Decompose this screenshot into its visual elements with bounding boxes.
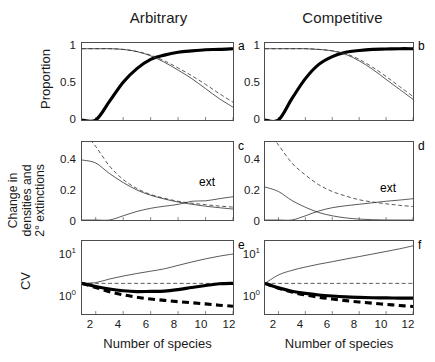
xtick-f-6: 6: [319, 319, 335, 331]
xtick-f-8: 8: [346, 319, 362, 331]
panel-b-plot: [265, 43, 413, 120]
xtick-e-4: 4: [110, 319, 126, 331]
panel-f-series: [265, 246, 413, 307]
ytick-e-10e1-exponent: 1: [72, 246, 76, 255]
xtick-e-2: 2: [82, 319, 98, 331]
panel-b-series: [265, 49, 413, 122]
xtick-e-10: 10: [191, 319, 211, 331]
xtick-f-4: 4: [292, 319, 308, 331]
ytick-a-1: 1: [48, 40, 76, 52]
panel-a: [81, 42, 234, 121]
xtick-f-10: 10: [371, 319, 391, 331]
ytick-c-0: 0: [44, 216, 76, 228]
ytick-f-10e0-exponent: 0: [256, 288, 260, 297]
series-proportion-thin-solid: [265, 49, 413, 100]
panel-d-series: [265, 127, 413, 220]
panel-letter-a: a: [238, 40, 245, 52]
panel-f: [264, 240, 414, 315]
panel-letter-d: d: [418, 140, 425, 152]
ytick-c-02: 0.2: [44, 185, 76, 197]
panel-a-series: [82, 49, 233, 122]
ytick-b-0: 0: [232, 114, 260, 126]
column-title-arbitrary: Arbitrary: [96, 9, 221, 26]
panel-a-plot: [82, 43, 233, 120]
panel-letter-b: b: [418, 40, 425, 52]
figure-root: Arbitrary Competitive Proportion 1 0.5 0…: [0, 0, 435, 362]
ytick-e-10e1: 101: [44, 249, 76, 261]
ytick-f-10e0-mantissa: 10: [243, 290, 256, 302]
ytick-e-10e0-mantissa: 10: [59, 290, 72, 302]
y-axis-label-cv: CV: [19, 261, 33, 301]
xtick-f-2: 2: [265, 319, 281, 331]
column-title-competitive: Competitive: [275, 9, 410, 26]
ytick-a-05: 0.5: [48, 77, 76, 89]
ytick-b-05: 0.5: [232, 77, 260, 89]
panel-b: [264, 42, 414, 121]
ytick-b-1: 1: [232, 40, 260, 52]
y-axis-label-change: Change in densities and 2° extinctions: [7, 146, 48, 254]
series-cv-thin-solid-rising: [265, 246, 413, 284]
ext-annotation-c: ext: [199, 176, 215, 188]
panel-letter-c: c: [238, 140, 244, 152]
series-proportion-thick-solid: [82, 49, 233, 122]
series-proportion-thick-solid: [265, 49, 413, 122]
y-axis-label-change-line2: densities and: [20, 146, 34, 254]
panel-e-plot: [82, 241, 233, 314]
x-axis-label-left: Number of species: [81, 337, 234, 350]
series-extinctions-thin-solid-rise: [82, 197, 233, 221]
ytick-a-0: 0: [48, 114, 76, 126]
ytick-c-04: 0.4: [44, 154, 76, 166]
xtick-f-12: 12: [398, 319, 418, 331]
xtick-e-6: 6: [138, 319, 154, 331]
ytick-e-10e0-exponent: 0: [72, 288, 76, 297]
x-axis-label-right: Number of species: [264, 337, 414, 350]
panel-e: [81, 240, 234, 315]
xtick-e-8: 8: [166, 319, 182, 331]
panel-letter-e: e: [238, 239, 245, 251]
ytick-e-10e0: 100: [44, 291, 76, 303]
panel-f-plot: [265, 241, 413, 314]
series-change-thin-dashed: [82, 130, 233, 207]
ext-annotation-d: ext: [380, 182, 396, 194]
series-cv-thin-solid-rising: [82, 254, 233, 283]
panel-letter-f: f: [418, 239, 421, 251]
ytick-f-10e1-exponent: 1: [256, 246, 260, 255]
xtick-e-12: 12: [219, 319, 239, 331]
y-axis-label-change-line1: Change in: [7, 146, 21, 254]
panel-e-series: [82, 254, 233, 306]
ytick-e-10e1-mantissa: 10: [59, 248, 72, 260]
series-proportion-thin-dashed: [265, 49, 413, 97]
